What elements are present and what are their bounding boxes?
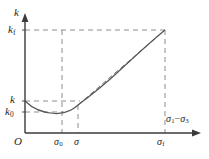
x-tick-label-sigma: σ [74,137,79,147]
y-axis-label: k [14,7,19,18]
plot-canvas [0,0,209,159]
sigma0-subscript: 0 [59,140,63,147]
x-axis-label: σ1−σ3 [166,114,189,125]
origin-label: O [14,136,22,147]
sigma3-subscript: 3 [185,117,189,124]
x-tick-label-sigmaf: σf [157,137,164,148]
y-axis-arrow [22,13,29,22]
kf-subscript: f [13,28,16,37]
x-tick-label-sigma0: σ0 [54,137,63,148]
y-tick-label-k: k [10,94,15,105]
figure-container: k kf k k0 O σ0 σ σf σ1−σ3 [0,0,209,159]
y-tick-label-kf: kf [8,24,16,36]
sigmaf-subscript: f [162,140,164,147]
x-axis-arrow [192,130,201,137]
y-tick-label-k0: k0 [5,106,14,118]
k0-subscript: 0 [10,110,14,119]
